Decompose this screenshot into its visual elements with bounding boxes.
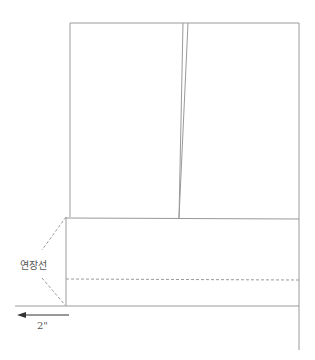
measure-label: 2" (37, 320, 48, 331)
middle-edge (66, 218, 299, 219)
arrow-left-icon (17, 312, 26, 318)
dashed-guide (66, 279, 299, 280)
pattern-diagram (0, 0, 315, 360)
extension-line-lower (42, 278, 65, 305)
dart-line-right (179, 23, 188, 218)
dart-line-left (179, 23, 183, 218)
extension-label: 연장선 (20, 257, 47, 272)
extension-line-upper (42, 217, 66, 250)
